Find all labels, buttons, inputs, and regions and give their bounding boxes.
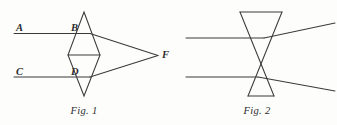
figure-1-group: A B C D F Fig. 1 [14,12,169,116]
refracted-ray-c-to-f [90,56,158,78]
figure-1-caption: Fig. 1 [70,105,98,116]
ray-label-a: A [15,22,23,33]
figure-2-caption: Fig. 2 [243,105,271,116]
vertex-label-d: D [70,66,79,77]
vertex-label-b: B [70,22,78,33]
refracted-ray-a-to-f [90,34,158,56]
figure-sheet: A B C D F Fig. 1 Fig. 2 [0,0,337,125]
focal-point-label-f: F [161,49,169,60]
figure-2-group: Fig. 2 [186,12,335,116]
lens-right-diagonal [248,12,282,96]
lens-left-diagonal [240,12,274,96]
ray-label-c: C [16,66,24,77]
optics-diagram: A B C D F Fig. 1 Fig. 2 [0,0,337,125]
